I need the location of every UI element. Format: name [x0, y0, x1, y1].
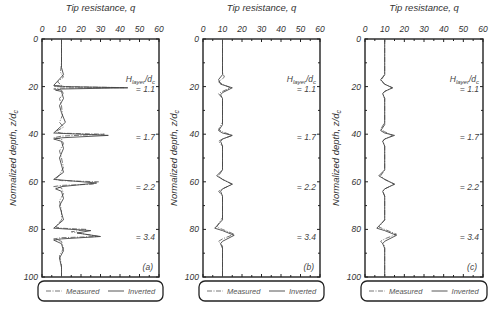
x-tick-label: 0 [201, 24, 206, 34]
y-axis-title: Normalized depth, z/dc [7, 110, 19, 206]
x-axis-title: Tip resistance, q [66, 2, 136, 13]
y-tick-label: 100 [185, 272, 199, 282]
y-tick-label: 0 [33, 34, 38, 44]
layer-ratio-annotation: = 2.2 [460, 182, 479, 192]
x-tick-label: 0 [40, 24, 45, 34]
x-tick-label: 30 [96, 24, 106, 34]
panel-c: Tip resistance, q01020304050600204060801… [330, 2, 488, 301]
legend-inverted-label: Inverted [128, 287, 156, 296]
measured-curve [217, 39, 235, 277]
x-tick-label: 30 [419, 24, 429, 34]
panel-a: Tip resistance, q01020304050600204060801… [7, 2, 164, 301]
x-tick-label: 30 [257, 24, 267, 34]
y-tick-label: 100 [24, 272, 38, 282]
layer-ratio-annotation: = 3.4 [297, 232, 316, 242]
measured-curve [54, 39, 124, 277]
x-tick-label: 60 [154, 24, 164, 34]
x-tick-label: 20 [75, 24, 86, 34]
layer-ratio-annotation: = 1.7 [460, 132, 479, 142]
panel-label: (c) [467, 262, 477, 272]
x-tick-label: 20 [236, 24, 247, 34]
legend-measured-label: Measured [227, 287, 261, 296]
y-tick-label: 40 [352, 129, 362, 139]
y-tick-label: 60 [190, 177, 200, 187]
y-tick-label: 0 [194, 34, 199, 44]
y-tick-label: 0 [356, 34, 361, 44]
x-tick-label: 0 [363, 24, 368, 34]
legend-inverted-label: Inverted [452, 287, 480, 296]
legend-measured-label: Measured [389, 287, 423, 296]
y-tick-label: 60 [29, 177, 39, 187]
layer-ratio-annotation: = 2.2 [136, 182, 155, 192]
panel-b: Tip resistance, q01020304050600204060801… [168, 2, 325, 301]
y-tick-label: 40 [190, 129, 200, 139]
layer-ratio-annotation: = 1.1 [460, 84, 479, 94]
x-tick-label: 40 [115, 24, 125, 34]
inverted-curve [377, 39, 397, 277]
layer-ratio-annotation: = 1.1 [136, 84, 155, 94]
y-tick-label: 80 [352, 224, 362, 234]
y-tick-label: 60 [352, 177, 362, 187]
x-tick-label: 20 [399, 24, 410, 34]
y-axis-title: Normalized depth, z/dc [330, 110, 342, 206]
x-tick-label: 10 [380, 24, 390, 34]
layer-ratio-annotation: = 1.7 [136, 132, 155, 142]
x-tick-label: 60 [478, 24, 488, 34]
legend-inverted-label: Inverted [289, 287, 317, 296]
x-tick-label: 50 [459, 24, 469, 34]
panel-label: (a) [143, 262, 154, 272]
x-tick-label: 10 [57, 24, 67, 34]
y-tick-label: 80 [190, 224, 200, 234]
x-tick-label: 40 [439, 24, 449, 34]
layer-ratio-annotation: = 3.4 [460, 232, 479, 242]
inverted-curve [215, 39, 235, 277]
layer-ratio-annotation: = 2.2 [297, 182, 316, 192]
layer-ratio-annotation: = 1.7 [297, 132, 316, 142]
layer-ratio-annotation: = 3.4 [136, 232, 155, 242]
figure-canvas: Tip resistance, q01020304050600204060801… [0, 0, 503, 317]
y-tick-label: 80 [29, 224, 39, 234]
x-axis-title: Tip resistance, q [227, 2, 297, 13]
y-axis-title: Normalized depth, z/dc [168, 110, 180, 206]
x-tick-label: 10 [218, 24, 228, 34]
x-tick-label: 60 [315, 24, 325, 34]
layer-ratio-annotation: = 1.1 [297, 84, 316, 94]
inverted-curve [54, 39, 128, 277]
x-axis-title: Tip resistance, q [389, 2, 459, 13]
y-tick-label: 100 [347, 272, 361, 282]
x-tick-label: 40 [276, 24, 286, 34]
legend-measured-label: Measured [66, 287, 100, 296]
y-tick-label: 20 [28, 82, 39, 92]
measured-curve [379, 39, 397, 277]
x-tick-label: 50 [135, 24, 145, 34]
panel-label: (b) [304, 262, 315, 272]
y-tick-label: 40 [29, 129, 39, 139]
y-tick-label: 20 [189, 82, 200, 92]
y-tick-label: 20 [351, 82, 362, 92]
x-tick-label: 50 [296, 24, 306, 34]
